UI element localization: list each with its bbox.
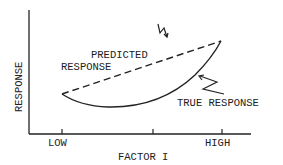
predicted-label-1: PREDICTED	[91, 49, 148, 61]
x-tick-low: LOW	[48, 137, 68, 149]
x-tick-high: HIGH	[205, 137, 230, 149]
y-axis-label: RESPONSE	[13, 62, 25, 112]
true-arrow-icon	[200, 76, 224, 94]
x-axis-label: FACTOR I	[118, 151, 168, 163]
true-label: TRUE RESPONSE	[177, 97, 259, 109]
predicted-label-2: RESPONSE	[61, 61, 111, 73]
chart: PREDICTED RESPONSE TRUE RESPONSE LOW HIG…	[0, 0, 283, 165]
